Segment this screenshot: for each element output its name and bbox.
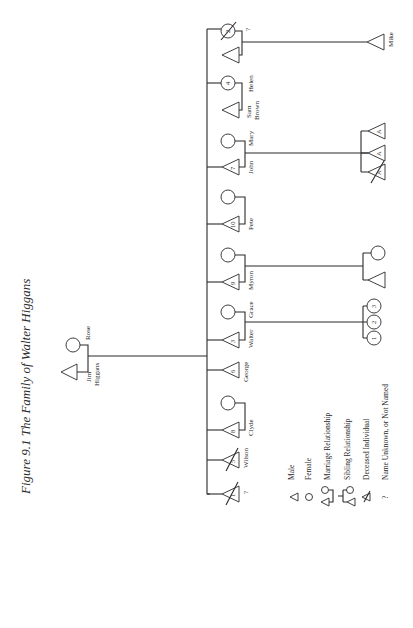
pete-label: Pete xyxy=(247,218,255,230)
child-female-icon xyxy=(371,246,385,260)
sam-brown-male-icon xyxy=(222,102,239,118)
legend-deceased-label: Deceased Individual xyxy=(362,419,371,480)
spouse-female-icon xyxy=(221,396,235,410)
mike-label: Mike xyxy=(387,32,395,47)
legend-male-icon xyxy=(347,498,355,506)
child-number: 2 xyxy=(370,321,377,324)
grace-female-icon xyxy=(221,305,235,319)
brown-label: Brown xyxy=(253,100,261,120)
walter-label: Walter xyxy=(247,329,255,348)
clyde-label: Clyde xyxy=(247,419,255,436)
jim-label: Jim xyxy=(85,371,93,382)
sibling-unknown-female: 2 ? Mike xyxy=(207,22,395,63)
legend-female-icon xyxy=(306,494,313,501)
spouse-female-icon xyxy=(221,248,235,262)
wilson-label: Wilson xyxy=(242,448,250,468)
sibling-number: 1 xyxy=(229,494,236,497)
spouse-female-icon xyxy=(221,190,235,204)
sibling-helen: 4 Helen Sam Brown xyxy=(207,75,261,120)
sibling-number: 8 xyxy=(229,430,236,433)
child-number: 3 xyxy=(370,305,377,308)
figure-title: Figure 9.1 The Family of Walter Higgans xyxy=(18,279,33,495)
helen-label: Helen xyxy=(247,75,255,92)
child-male-icon xyxy=(368,272,385,288)
sibling-george: 6 George xyxy=(207,362,250,382)
child-label: A xyxy=(375,129,382,134)
legend-female-icon xyxy=(347,487,354,494)
spouse-male-icon xyxy=(222,47,239,63)
legend: Male Female Marriage Relationship Siblin… xyxy=(287,384,390,506)
sibling-wilson: 5 Wilson xyxy=(207,448,250,471)
sibling-number: 9 xyxy=(229,282,236,285)
rose-label: Rose xyxy=(84,326,92,340)
legend-male-label: Male xyxy=(287,464,296,480)
sibling-clyde: 8 Clyde xyxy=(207,396,255,438)
sibling-1-unknown: 1 ? xyxy=(207,482,250,505)
legend-question-icon: ? xyxy=(381,495,390,499)
sibling-number: 5 xyxy=(229,460,236,463)
sibling-pete: 10 Pete xyxy=(207,190,255,232)
legend-female-label: Female xyxy=(304,457,313,480)
sibling-walter: 3 Walter Grace 1 2 3 xyxy=(207,299,381,348)
mary-label: Mary xyxy=(247,130,255,146)
child-label: A xyxy=(375,151,382,156)
george-label: George xyxy=(242,362,250,382)
rose-female-icon xyxy=(66,338,80,352)
mike-male-icon xyxy=(367,34,384,50)
legend-sibling-label: Sibling Relationship xyxy=(343,418,352,480)
child-number: 1 xyxy=(370,337,377,340)
sibling-bar xyxy=(207,29,210,494)
myron-label: Myron xyxy=(247,270,255,290)
sibling-john: 7 John Mary A A A xyxy=(207,123,385,183)
jim-male-icon xyxy=(61,364,77,380)
genealogy-figure: Figure 9.1 The Family of Walter Higgans … xyxy=(0,0,413,628)
higgans-label: Higgans xyxy=(93,362,101,386)
unknown-name-label: ? xyxy=(244,28,252,31)
sibling-myron: 9 Myron xyxy=(207,246,385,290)
john-label: John xyxy=(247,160,255,174)
child-label: A xyxy=(375,170,382,175)
unknown-name-label: ? xyxy=(242,491,250,494)
legend-male-icon xyxy=(321,498,329,506)
legend-marriage-label: Marriage Relationship xyxy=(323,412,332,480)
legend-male-icon xyxy=(290,493,298,501)
sibling-number: 2 xyxy=(224,30,231,33)
sibling-number: 10 xyxy=(229,222,236,229)
parents-couple: Jim Higgans Rose xyxy=(61,326,207,386)
mary-female-icon xyxy=(221,134,235,148)
sibling-number: 3 xyxy=(229,340,236,343)
grace-label: Grace xyxy=(247,301,255,318)
legend-female-icon xyxy=(322,487,329,494)
sam-label: Sam xyxy=(245,105,253,118)
legend-unknown-label: Name Unknown, or Not Named xyxy=(381,384,390,480)
